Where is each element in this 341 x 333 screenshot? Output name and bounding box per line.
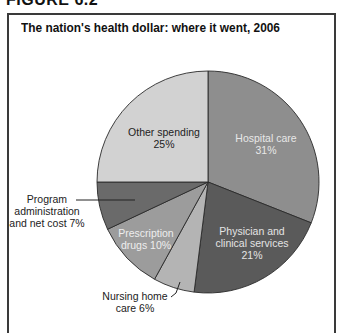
pie-slices bbox=[97, 71, 319, 293]
label-prescription-drugs: Prescriptiondrugs 10% bbox=[118, 227, 174, 251]
label-nursing-home-care: Nursing homecare 6% bbox=[102, 290, 168, 314]
label-program-administration: Programadministrationand net cost 7% bbox=[9, 193, 84, 229]
